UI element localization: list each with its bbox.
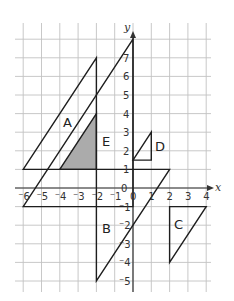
x-tick-label: ⁻5 bbox=[37, 191, 49, 202]
y-axis-label: y bbox=[123, 21, 131, 34]
label-e: E bbox=[102, 134, 110, 149]
x-tick-label: 2 bbox=[167, 191, 173, 202]
x-tick-label: ⁻2 bbox=[91, 191, 103, 202]
y-tick-label: 2 bbox=[123, 146, 129, 157]
y-tick-label: 0 bbox=[121, 183, 127, 194]
y-tick-label: 3 bbox=[123, 127, 129, 138]
y-tick-label: 4 bbox=[123, 109, 129, 120]
x-axis-label: x bbox=[215, 181, 222, 194]
grid bbox=[15, 23, 211, 292]
label-a: A bbox=[63, 115, 72, 130]
y-tick-label: ⁻4 bbox=[119, 257, 131, 268]
y-tick-label: 6 bbox=[123, 71, 129, 82]
y-tick-label: 1 bbox=[123, 164, 129, 175]
y-tick-label: 5 bbox=[123, 90, 129, 101]
x-tick-label: ⁻3 bbox=[73, 191, 85, 202]
x-tick-label: 4 bbox=[203, 191, 209, 202]
x-tick-label: ⁻6 bbox=[18, 191, 30, 202]
y-axis-arrow-icon bbox=[130, 31, 136, 38]
label-b: B bbox=[102, 221, 111, 236]
triangle-d bbox=[133, 132, 151, 160]
y-tick-label: 7 bbox=[123, 53, 129, 64]
x-tick-label: 0 bbox=[130, 191, 136, 202]
label-d: D bbox=[155, 139, 165, 154]
y-tick-label: ⁻2 bbox=[119, 220, 131, 231]
label-c: C bbox=[174, 217, 183, 232]
x-tick-label: 3 bbox=[185, 191, 191, 202]
x-tick-label: ⁻4 bbox=[55, 191, 67, 202]
y-tick-label: ⁻1 bbox=[119, 202, 131, 213]
x-tick-label: 1 bbox=[148, 191, 154, 202]
y-tick-label: ⁻3 bbox=[119, 239, 131, 250]
x-tick-label: ⁻1 bbox=[110, 191, 122, 202]
coordinate-grid-diagram: x y ⁻6⁻5⁻4⁻3⁻2⁻101234⁻5⁻4⁻3⁻2⁻101234567 … bbox=[0, 0, 234, 301]
y-tick-label: ⁻5 bbox=[119, 276, 131, 287]
